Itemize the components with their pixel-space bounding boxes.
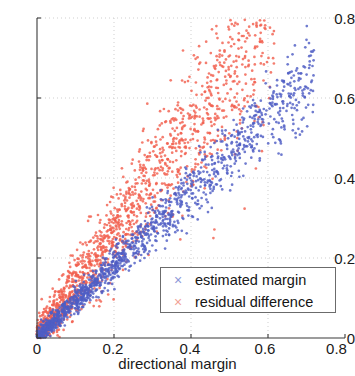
plot-canvas <box>0 0 355 376</box>
legend-label-estimated-margin: estimated margin <box>195 272 306 288</box>
ytick-label-1: 0.6 <box>323 91 355 106</box>
xtick-label-0: 0 <box>24 341 50 356</box>
xtick-label-1: 0.2 <box>90 341 136 356</box>
xtick-label-2: 0.4 <box>167 341 213 356</box>
ytick-label-3: 0.2 <box>323 251 355 266</box>
legend-item-estimated-margin: × estimated margin <box>161 268 335 291</box>
legend-marker-estimated-margin-cross-icon: × <box>161 273 195 287</box>
scatter-plot-figure: 0.8 0.6 0.4 0.2 0 0 0.2 0.4 0.6 0.8 dire… <box>0 0 355 376</box>
legend: × estimated margin × residual difference <box>160 267 336 313</box>
x-axis-label: directional margin <box>0 355 355 372</box>
xtick-label-3: 0.6 <box>242 341 288 356</box>
ytick-label-0: 0.8 <box>323 11 355 26</box>
legend-marker-residual-difference-cross-icon: × <box>161 295 195 309</box>
ytick-label-2: 0.4 <box>323 171 355 186</box>
legend-label-residual-difference: residual difference <box>195 294 313 310</box>
legend-item-residual-difference: × residual difference <box>161 290 335 313</box>
xtick-label-4: 0.8 <box>318 341 355 356</box>
